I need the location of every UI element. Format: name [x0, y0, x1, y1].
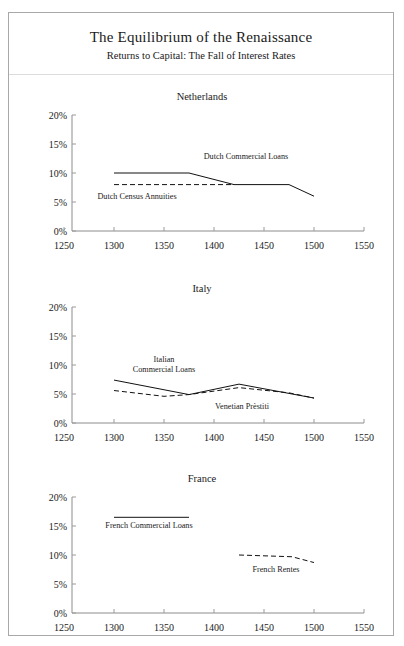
x-tick-label: 1250	[54, 622, 74, 633]
x-tick-label: 1450	[254, 240, 274, 251]
x-tick-label: 1500	[304, 432, 324, 443]
y-tick-label: 20%	[49, 302, 67, 313]
x-tick-label: 1550	[354, 432, 374, 443]
x-tick-label: 1350	[154, 240, 174, 251]
series-label: French Rentes	[252, 565, 299, 574]
page-subtitle: Returns to Capital: The Fall of Interest…	[9, 50, 393, 62]
x-tick-label: 1400	[204, 432, 224, 443]
y-tick-label: 10%	[49, 168, 67, 179]
x-tick-label: 1300	[104, 432, 124, 443]
series-label: French Commercial Loans	[105, 521, 192, 530]
y-tick-label: 10%	[49, 360, 67, 371]
y-tick-label: 15%	[49, 521, 67, 532]
x-tick-label: 1250	[54, 240, 74, 251]
series-label: Venetian Prèstiti	[215, 402, 270, 411]
title-divider	[9, 74, 393, 75]
title-block: The Equilibrium of the Renaissance Retur…	[9, 13, 393, 62]
x-tick-label: 1500	[304, 622, 324, 633]
series-line	[114, 380, 314, 398]
chart-plot-italy: 0%5%10%15%20%125013001350140014501500155…	[9, 281, 395, 461]
x-tick-label: 1400	[204, 622, 224, 633]
chart-panel-italy: Italy 0%5%10%15%20%125013001350140014501…	[9, 281, 395, 461]
y-tick-label: 0%	[54, 226, 67, 237]
x-tick-label: 1550	[354, 240, 374, 251]
page-title: The Equilibrium of the Renaissance	[9, 29, 393, 46]
y-tick-label: 10%	[49, 550, 67, 561]
x-tick-label: 1450	[254, 432, 274, 443]
y-tick-label: 20%	[49, 492, 67, 503]
chart-panel-france: France 0%5%10%15%20%12501300135014001450…	[9, 471, 395, 646]
y-tick-label: 20%	[49, 110, 67, 121]
x-tick-label: 1350	[154, 432, 174, 443]
x-tick-label: 1500	[304, 240, 324, 251]
y-tick-label: 0%	[54, 608, 67, 619]
chart-plot-netherlands: 0%5%10%15%20%125013001350140014501500155…	[9, 89, 395, 269]
chart-plot-france: 0%5%10%15%20%125013001350140014501500155…	[9, 471, 395, 646]
x-tick-label: 1450	[254, 622, 274, 633]
page-sheet: The Equilibrium of the Renaissance Retur…	[8, 12, 394, 636]
y-tick-label: 0%	[54, 418, 67, 429]
x-tick-label: 1250	[54, 432, 74, 443]
x-tick-label: 1300	[104, 240, 124, 251]
y-tick-label: 5%	[54, 197, 67, 208]
y-tick-label: 15%	[49, 139, 67, 150]
series-label: ItalianCommercial Loans	[133, 355, 196, 374]
x-tick-label: 1400	[204, 240, 224, 251]
x-tick-label: 1550	[354, 622, 374, 633]
series-label: Dutch Commercial Loans	[204, 152, 289, 161]
y-tick-label: 15%	[49, 331, 67, 342]
x-tick-label: 1350	[154, 622, 174, 633]
x-tick-label: 1300	[104, 622, 124, 633]
y-tick-label: 5%	[54, 579, 67, 590]
y-tick-label: 5%	[54, 389, 67, 400]
series-label: Dutch Census Annuities	[97, 192, 176, 201]
series-line	[239, 555, 314, 563]
chart-panel-netherlands: Netherlands 0%5%10%15%20%125013001350140…	[9, 89, 395, 269]
